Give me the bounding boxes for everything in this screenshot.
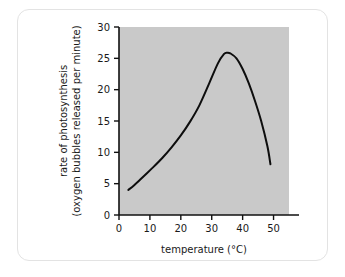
x-tick-label: 10: [144, 223, 157, 234]
y-tick-label: 10: [97, 147, 110, 158]
x-tick-label: 40: [236, 223, 249, 234]
x-tick-label: 0: [116, 223, 122, 234]
y-tick-label: 20: [97, 84, 110, 95]
chart-stage: 051015202530 01020304050 temperature (°C…: [18, 10, 329, 262]
x-axis: 01020304050: [116, 215, 299, 234]
y-axis-title-line2: (oxygen bubbles released per minute): [71, 25, 82, 216]
x-tick-label: 30: [205, 223, 218, 234]
x-tick-label: 50: [267, 223, 280, 234]
y-tick-label: 5: [104, 178, 110, 189]
y-axis-title-line1: rate of photosynthesis: [58, 65, 69, 177]
y-tick-label: 25: [97, 53, 110, 64]
x-tick-label: 20: [174, 223, 187, 234]
y-axis-ticks: 051015202530: [97, 22, 119, 221]
photosynthesis-rate-chart: 051015202530 01020304050 temperature (°C…: [18, 10, 329, 262]
figure-card: 051015202530 01020304050 temperature (°C…: [17, 9, 328, 261]
x-axis-ticks: 01020304050: [116, 215, 280, 234]
y-tick-label: 15: [97, 116, 110, 127]
plot-area-background: [119, 27, 289, 215]
x-axis-title: temperature (°C): [161, 244, 247, 255]
y-axis: 051015202530: [97, 22, 119, 221]
y-tick-label: 0: [104, 210, 110, 221]
y-tick-label: 30: [97, 22, 110, 33]
